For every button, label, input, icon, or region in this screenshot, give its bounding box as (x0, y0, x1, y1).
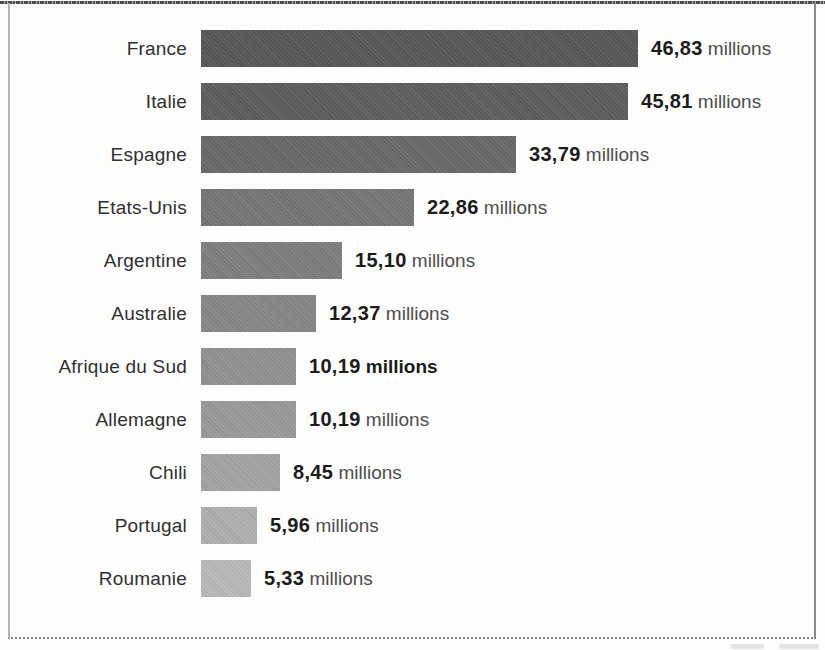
value-number: 46,83 (651, 37, 703, 59)
bar-track: 15,10 millions (201, 242, 814, 279)
chart-row: France46,83 millions (10, 30, 814, 67)
value-bar (201, 30, 638, 67)
value-number: 12,37 (329, 302, 381, 324)
value-bar (201, 83, 628, 120)
bar-track: 5,96 millions (201, 507, 814, 544)
bar-track: 10,19 millions (201, 348, 814, 385)
value-label: 45,81 millions (641, 90, 761, 113)
value-bar (201, 348, 296, 385)
bar-track: 33,79 millions (201, 136, 814, 173)
value-bar (201, 507, 257, 544)
chart-row: Etats-Unis22,86 millions (10, 189, 814, 226)
category-label: Chili (10, 462, 201, 484)
bar-track: 45,81 millions (201, 83, 814, 120)
value-unit: millions (407, 250, 476, 271)
value-bar (201, 454, 280, 491)
category-label: Espagne (10, 144, 201, 166)
value-number: 33,79 (529, 143, 581, 165)
category-label: Australie (10, 303, 201, 325)
bar-track: 12,37 millions (201, 295, 814, 332)
value-bar (201, 560, 251, 597)
chart-row: Italie45,81 millions (10, 83, 814, 120)
value-number: 45,81 (641, 90, 693, 112)
chart-row: Allemagne10,19 millions (10, 401, 814, 438)
illegible-credit-mark (730, 644, 764, 649)
value-unit: millions (703, 38, 772, 59)
value-unit: millions (479, 197, 548, 218)
category-label: Etats-Unis (10, 197, 201, 219)
value-label: 22,86 millions (427, 196, 547, 219)
bar-track: 22,86 millions (201, 189, 814, 226)
chart-row: Portugal5,96 millions (10, 507, 814, 544)
value-number: 22,86 (427, 196, 479, 218)
value-label: 5,33 millions (264, 567, 373, 590)
value-number: 5,96 (270, 514, 310, 536)
value-label: 12,37 millions (329, 302, 449, 325)
source-note (730, 644, 819, 649)
value-label: 33,79 millions (529, 143, 649, 166)
value-label: 10,19 millions (309, 408, 429, 431)
value-unit: millions (304, 568, 373, 589)
chart-row: Argentine15,10 millions (10, 242, 814, 279)
value-unit: millions (581, 144, 650, 165)
category-label: Portugal (10, 515, 201, 537)
chart-row: Chili8,45 millions (10, 454, 814, 491)
value-unit: millions (361, 356, 438, 377)
value-label: 8,45 millions (293, 461, 402, 484)
chart-row: Roumanie5,33 millions (10, 560, 814, 597)
value-unit: millions (361, 409, 430, 430)
value-number: 5,33 (264, 567, 304, 589)
illegible-credit-mark (779, 644, 819, 649)
category-label: Afrique du Sud (10, 356, 201, 378)
value-bar (201, 295, 316, 332)
chart-row: Australie12,37 millions (10, 295, 814, 332)
bar-track: 5,33 millions (201, 560, 814, 597)
category-label: Allemagne (10, 409, 201, 431)
value-number: 10,19 (309, 355, 361, 377)
value-bar (201, 401, 296, 438)
value-number: 15,10 (355, 249, 407, 271)
value-label: 5,96 millions (270, 514, 379, 537)
category-label: Argentine (10, 250, 201, 272)
category-label: France (10, 38, 201, 60)
value-label: 10,19 millions (309, 355, 438, 378)
chart-row: Afrique du Sud10,19 millions (10, 348, 814, 385)
value-unit: millions (333, 462, 402, 483)
value-label: 15,10 millions (355, 249, 475, 272)
value-bar (201, 242, 342, 279)
bar-track: 46,83 millions (201, 30, 814, 67)
value-number: 8,45 (293, 461, 333, 483)
value-unit: millions (381, 303, 450, 324)
bar-track: 10,19 millions (201, 401, 814, 438)
chart-frame: France46,83 millionsItalie45,81 millions… (8, 3, 816, 639)
chart-row: Espagne33,79 millions (10, 136, 814, 173)
value-unit: millions (693, 91, 762, 112)
value-bar (201, 189, 414, 226)
value-label: 46,83 millions (651, 37, 771, 60)
value-unit: millions (310, 515, 379, 536)
bar-chart: France46,83 millionsItalie45,81 millions… (10, 30, 814, 597)
value-bar (201, 136, 516, 173)
category-label: Roumanie (10, 568, 201, 590)
bar-track: 8,45 millions (201, 454, 814, 491)
category-label: Italie (10, 91, 201, 113)
value-number: 10,19 (309, 408, 361, 430)
